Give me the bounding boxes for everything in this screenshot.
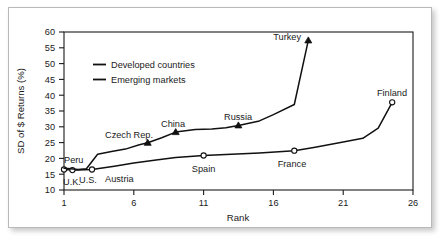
- x-axis-ticks: [64, 190, 413, 195]
- annotation-france: France: [278, 159, 307, 169]
- data-point-marker: [390, 100, 395, 105]
- annotation-finland: Finland: [377, 88, 407, 98]
- y-tick-label: 15: [45, 170, 55, 180]
- annotation-peru: Peru: [64, 155, 83, 165]
- chart-legend: Developed countries Emerging markets: [93, 60, 195, 85]
- annotation-turkey: Turkey: [273, 32, 301, 42]
- y-tick-label: 45: [45, 75, 55, 85]
- y-tick-label: 60: [45, 27, 55, 37]
- y-tick-label: 50: [45, 59, 55, 69]
- x-axis-title: Rank: [227, 212, 250, 223]
- data-point-marker: [305, 37, 312, 43]
- data-point-marker: [89, 167, 94, 172]
- y-axis-title: SD of $ Returns (%): [15, 68, 26, 154]
- y-axis-ticks: [59, 32, 64, 190]
- x-tick-label: 1: [61, 198, 66, 208]
- x-tick-label: 21: [338, 198, 348, 208]
- screenshot-root: 60 55 50 45 40 35 30 25 20 15 10: [0, 0, 445, 242]
- legend-label-developed-countries: Developed countries: [111, 60, 195, 70]
- data-point-marker: [292, 148, 297, 153]
- x-tick-label: 26: [408, 198, 418, 208]
- line-chart: 60 55 50 45 40 35 30 25 20 15 10: [9, 8, 431, 227]
- annotation-us: U.S.: [79, 175, 97, 185]
- annotation-russia: Russia: [224, 112, 253, 122]
- annotation-austria: Austria: [105, 174, 134, 184]
- x-axis-tick-labels: 1 6 11 16 21 26: [61, 198, 418, 208]
- y-tick-label: 55: [45, 43, 55, 53]
- annotation-spain: Spain: [192, 164, 216, 174]
- y-tick-label: 30: [45, 122, 55, 132]
- y-tick-label: 25: [45, 138, 55, 148]
- y-axis-tick-labels: 60 55 50 45 40 35 30 25 20 15 10: [45, 27, 55, 195]
- data-point-marker: [201, 153, 206, 158]
- data-point-annotations: Peru U.K. U.S. Austria Czech Rep. China …: [63, 32, 407, 187]
- y-tick-label: 40: [45, 91, 55, 101]
- figure-frame: 60 55 50 45 40 35 30 25 20 15 10: [8, 7, 432, 228]
- y-tick-label: 10: [45, 185, 55, 195]
- annotation-czech: Czech Rep.: [105, 130, 153, 140]
- x-tick-label: 16: [268, 198, 278, 208]
- legend-label-emerging-markets: Emerging markets: [111, 75, 186, 85]
- annotation-china: China: [161, 119, 186, 129]
- x-tick-label: 6: [131, 198, 136, 208]
- y-tick-label: 35: [45, 106, 55, 116]
- y-tick-label: 20: [45, 154, 55, 164]
- series-markers-emerging-markets: [144, 37, 312, 145]
- x-tick-label: 11: [199, 198, 209, 208]
